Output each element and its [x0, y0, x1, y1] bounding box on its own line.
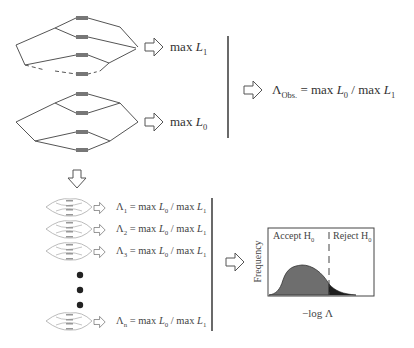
- replicate-tree-icon: [46, 243, 92, 260]
- arrow-right-icon: [94, 224, 105, 235]
- reject-h0-label: Reject H0: [333, 230, 372, 243]
- accept-h0-label: Accept H0: [273, 230, 314, 243]
- arrow-right-icon: [145, 113, 163, 131]
- arrow-right-icon: [94, 202, 105, 213]
- tree-alternative-hypothesis: [16, 16, 138, 76]
- arrow-right-icon: [226, 253, 244, 271]
- label-max-L0: max L0: [170, 114, 207, 132]
- x-axis-label: −log Λ: [302, 307, 333, 319]
- arrow-right-icon: [145, 38, 163, 56]
- ellipsis-dots: [77, 272, 83, 308]
- replicate-formula-3: Λ3 = max L0 / max L1: [116, 245, 206, 258]
- label-max-L1: max L1: [170, 39, 207, 57]
- replicate-tree-icon: [46, 221, 92, 238]
- arrow-right-icon: [94, 316, 105, 327]
- tree-null-hypothesis: [16, 92, 138, 152]
- arrow-down-icon: [68, 170, 86, 188]
- taxon-bars: [76, 92, 88, 152]
- replicate-formula-n: Λn = max L0 / max L1: [116, 315, 206, 328]
- replicate-tree-icon: [46, 313, 92, 330]
- arrow-right-icon: [94, 246, 105, 257]
- observed-statistic-formula: ΛObs. = max L0 / max L1: [272, 82, 395, 100]
- replicate-formula-1: Λ1 = max L0 / max L1: [116, 201, 206, 214]
- taxon-bars: [76, 16, 88, 76]
- replicate-tree-icon: [46, 199, 92, 216]
- replicate-formula-2: Λ2 = max L0 / max L1: [116, 223, 206, 236]
- y-axis-label: Frequency: [252, 232, 263, 292]
- arrow-right-icon: [244, 81, 262, 99]
